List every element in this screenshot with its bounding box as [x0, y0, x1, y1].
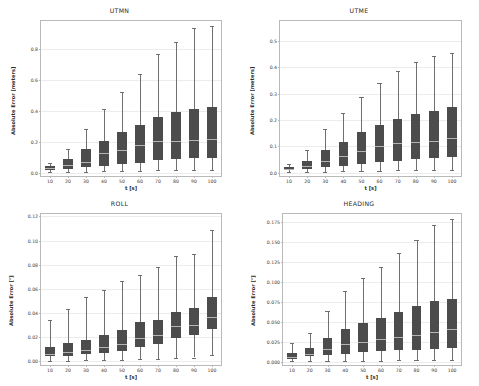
panel-title-roll: ROLL: [0, 200, 239, 207]
x-tick-mark: [194, 176, 195, 178]
whisker-upper: [328, 311, 329, 338]
whisker-upper: [452, 53, 453, 107]
x-tick-mark: [289, 176, 290, 178]
x-tick-label: 70: [396, 368, 402, 373]
whisker-upper: [194, 28, 195, 109]
gridline-y: [283, 222, 461, 223]
boxplot-figure: UTMN Absolute Error [meters] t [s] 0.00.…: [0, 0, 479, 386]
x-tick-mark: [122, 176, 123, 178]
x-tick-mark: [328, 365, 329, 367]
x-tick-label: 60: [377, 179, 383, 184]
x-tick-mark: [86, 176, 87, 178]
median-line: [302, 166, 311, 167]
x-tick-mark: [140, 176, 141, 178]
x-tick-label: 10: [47, 368, 53, 373]
median-line: [153, 335, 162, 336]
y-tick-mark: [281, 342, 283, 343]
box-iqr: [412, 306, 421, 350]
x-tick-label: 60: [378, 368, 384, 373]
y-tick-label: 0.025: [267, 339, 280, 344]
cap-lower: [210, 355, 214, 356]
cap-lower: [359, 171, 363, 172]
box-iqr: [411, 114, 420, 159]
y-tick-label: 0.2: [31, 139, 38, 144]
cap-lower: [84, 360, 88, 361]
whisker-lower: [194, 158, 195, 170]
whisker-upper: [398, 71, 399, 119]
whisker-lower: [158, 344, 159, 359]
cap-lower: [450, 360, 454, 361]
cap-upper: [66, 149, 70, 150]
x-tick-label: 80: [173, 368, 179, 373]
whisker-lower: [434, 349, 435, 360]
y-tick-label: 0.6: [31, 77, 38, 82]
whisker-lower: [434, 158, 435, 170]
plot-area-utme: t [s] 0.00.10.20.30.40.51020304050607080…: [279, 20, 462, 177]
cap-lower: [450, 170, 454, 171]
whisker-upper: [122, 281, 123, 330]
plot-area-heading: t [s] 0.0000.0250.0500.0750.1000.1250.15…: [282, 213, 462, 366]
whisker-upper: [307, 150, 308, 161]
y-axis-label-utmn: Absolute Error [meters]: [10, 67, 16, 135]
box-iqr: [171, 312, 180, 338]
cap-lower: [174, 170, 178, 171]
y-tick-mark: [39, 361, 41, 362]
y-tick-label: 0.12: [28, 214, 38, 219]
median-line: [394, 337, 403, 338]
cap-upper: [48, 163, 52, 164]
x-tick-mark: [176, 176, 177, 178]
x-tick-label: 40: [340, 179, 346, 184]
cap-upper: [84, 129, 88, 130]
x-tick-label: 80: [173, 179, 179, 184]
cap-upper: [84, 297, 88, 298]
y-tick-label: 0.8: [31, 46, 38, 51]
median-line: [117, 344, 126, 345]
cap-upper: [156, 54, 160, 55]
cap-lower: [156, 359, 160, 360]
y-axis-label-heading: Absolute Error [°]: [250, 275, 256, 326]
cap-upper: [287, 164, 291, 165]
median-line: [287, 357, 296, 358]
y-tick-mark: [39, 142, 41, 143]
median-line: [117, 150, 126, 151]
cap-lower: [102, 360, 106, 361]
cap-upper: [66, 309, 70, 310]
cap-upper: [120, 281, 124, 282]
whisker-upper: [452, 219, 453, 299]
median-line: [393, 143, 402, 144]
box-iqr: [63, 343, 72, 355]
whisker-lower: [194, 335, 195, 358]
whisker-upper: [212, 26, 213, 107]
x-tick-label: 20: [307, 368, 313, 373]
cap-upper: [432, 56, 436, 57]
y-tick-label: 0.0: [31, 170, 38, 175]
box-iqr: [153, 320, 162, 344]
x-tick-label: 90: [431, 368, 437, 373]
whisker-upper: [140, 74, 141, 125]
x-tick-mark: [361, 176, 362, 178]
x-tick-label: 40: [101, 368, 107, 373]
box-iqr: [99, 141, 108, 166]
y-tick-mark: [39, 111, 41, 112]
x-tick-mark: [122, 365, 123, 367]
x-tick-mark: [343, 176, 344, 178]
x-tick-label: 60: [137, 179, 143, 184]
whisker-upper: [417, 240, 418, 306]
y-tick-mark: [281, 262, 283, 263]
panel-title-utmn: UTMN: [0, 7, 239, 14]
cap-upper: [120, 92, 124, 93]
x-tick-mark: [310, 365, 311, 367]
whisker-lower: [452, 348, 453, 360]
y-tick-label: 0.02: [28, 335, 38, 340]
cap-upper: [210, 26, 214, 27]
cap-upper: [323, 129, 327, 130]
cap-lower: [84, 172, 88, 173]
cap-upper: [290, 343, 294, 344]
whisker-upper: [158, 267, 159, 321]
x-tick-mark: [292, 365, 293, 367]
cap-lower: [290, 361, 294, 362]
plot-area-roll: t [s] 0.000.020.040.060.080.100.12102030…: [40, 213, 222, 366]
y-tick-label: 0.1: [270, 144, 277, 149]
box-iqr: [358, 323, 367, 351]
x-tick-mark: [452, 176, 453, 178]
